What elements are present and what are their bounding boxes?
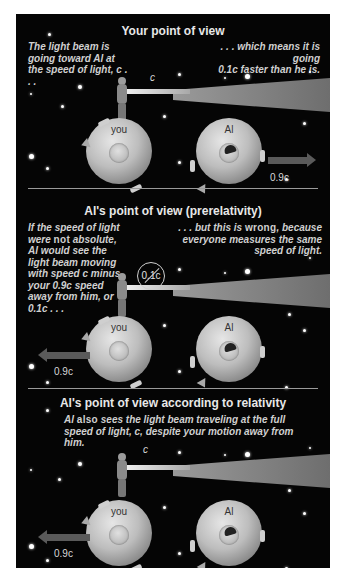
star <box>303 512 306 515</box>
globe-tab <box>190 356 195 368</box>
star <box>245 74 250 79</box>
star <box>178 451 181 454</box>
caption-right-line2: 0.1c faster than he is. <box>218 64 320 75</box>
star <box>78 85 82 89</box>
you-label: you <box>86 124 152 135</box>
star <box>309 447 311 449</box>
astronaut-legs <box>118 479 126 497</box>
caption-emphasis: also <box>77 414 98 425</box>
velocity-label: 0.9c <box>270 172 289 183</box>
astronaut-body <box>117 280 127 300</box>
star <box>48 33 51 36</box>
astronaut-figure <box>116 77 128 121</box>
al-globe: Al <box>196 500 262 566</box>
globe-tab <box>260 346 265 358</box>
astronaut-body <box>117 460 127 480</box>
section-prerelativity: Al's point of view (prerelativity) If th… <box>16 192 330 382</box>
velocity-arrow-left-icon <box>46 534 90 541</box>
caption-right: . . . which means it is going 0.1c faste… <box>200 41 320 76</box>
astronaut-legs <box>118 299 126 317</box>
section-title: Your point of view <box>16 24 330 38</box>
star <box>224 454 226 456</box>
star <box>178 73 181 76</box>
you-globe: you <box>86 316 152 382</box>
star <box>178 552 181 555</box>
caption-emphasis: wrong <box>245 222 277 233</box>
caption-text: absolute, Al would see the light beam mo… <box>28 234 120 314</box>
star <box>309 257 311 259</box>
star <box>46 559 49 562</box>
you-globe: you <box>86 118 152 184</box>
star <box>178 268 181 271</box>
star <box>178 161 181 164</box>
you-label: you <box>86 506 152 517</box>
caption-left: If the speed of light were not absolute,… <box>28 222 128 314</box>
al-label: Al <box>196 322 262 333</box>
light-beam-spread <box>173 274 330 308</box>
caption: Al also sees the light beam traveling at… <box>64 414 304 449</box>
globe-tab <box>190 160 195 172</box>
velocity-arrow-left-icon <box>46 352 90 359</box>
caption-text: . . . but this is <box>178 222 242 233</box>
star <box>61 105 64 108</box>
porthole <box>109 525 129 545</box>
star <box>46 381 49 384</box>
star <box>245 452 250 457</box>
star <box>46 167 49 170</box>
caption-right: . . . but this is wrong, because everyon… <box>162 222 322 257</box>
section-relativity: Al's point of view according to relativi… <box>16 392 330 568</box>
globe-tab <box>130 564 143 568</box>
star <box>163 506 166 509</box>
star <box>288 313 291 316</box>
porthole <box>109 341 129 361</box>
astronaut-figure <box>116 453 128 497</box>
star <box>288 489 291 492</box>
star <box>303 122 306 125</box>
al-globe: Al <box>196 118 262 184</box>
diagram-panel: Your point of view The light beam is goi… <box>16 14 330 568</box>
section-your-point-of-view: Your point of view The light beam is goi… <box>16 14 330 192</box>
light-beam-spread <box>173 454 330 488</box>
globe-tab <box>260 150 265 162</box>
you-globe: you <box>86 500 152 566</box>
caption-emphasis: not <box>54 234 70 245</box>
star <box>46 409 49 412</box>
caption-right-line1: . . . which means it is going <box>221 41 320 64</box>
you-label: you <box>86 322 152 333</box>
velocity-arrow-right-icon <box>268 157 308 164</box>
star <box>224 77 226 79</box>
star <box>285 567 288 568</box>
star <box>224 272 226 274</box>
globe-fin <box>197 562 210 568</box>
star <box>303 329 306 332</box>
star <box>58 478 61 481</box>
star <box>309 71 311 73</box>
porthole <box>109 143 129 163</box>
star <box>29 364 34 369</box>
al-label: Al <box>196 124 262 135</box>
caption-text: Al <box>64 414 74 425</box>
star <box>78 462 82 466</box>
light-beam <box>124 89 190 94</box>
star <box>29 544 34 549</box>
star <box>30 93 32 95</box>
section-divider <box>28 388 318 389</box>
beam-speed-label: c <box>150 72 155 83</box>
caption-text: sees the light beam traveling at the ful… <box>64 414 293 448</box>
section-title: Al's point of view according to relativi… <box>16 396 330 410</box>
star <box>163 115 166 118</box>
light-beam <box>124 465 190 470</box>
star <box>178 370 181 373</box>
section-divider <box>28 188 318 189</box>
beam-speed-label: c <box>143 444 148 455</box>
light-beam-spread <box>173 78 330 112</box>
al-globe: Al <box>196 316 262 382</box>
star <box>30 469 32 471</box>
astronaut-figure <box>116 273 128 317</box>
caption-left: The light beam is going toward Al at the… <box>28 41 128 87</box>
section-title: Al's point of view (prerelativity) <box>16 204 330 218</box>
velocity-label: 0.9c <box>54 548 73 559</box>
crossed-out-speed-label: 0.1c <box>137 262 165 290</box>
velocity-label: 0.9c <box>54 366 73 377</box>
star <box>163 324 166 327</box>
